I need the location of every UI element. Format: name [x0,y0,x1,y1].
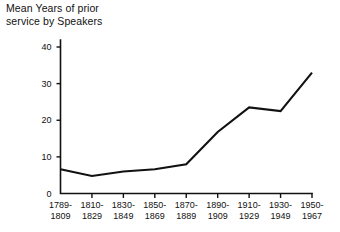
x-tick-label: 1810-1829 [80,200,103,221]
chart-figure: Mean Years of prior service by Speakers … [0,0,340,232]
y-tick-label: 20 [41,115,51,125]
y-tick-label: 40 [41,42,51,52]
line-chart-plot: 010203040 1789-18091810-18291830-1849185… [0,0,340,232]
y-tick-label: 10 [41,152,51,162]
x-tick-label: 1890-1909 [206,200,229,221]
axis-lines [61,40,313,194]
y-tick-label: 30 [41,79,51,89]
y-tick-label: 0 [46,189,51,199]
axes [61,40,313,194]
x-tick-label: 1950-1967 [300,200,323,221]
y-axis-tick-labels: 010203040 [41,42,51,199]
data-series-line [61,73,313,176]
x-tick-label: 1789-1809 [49,200,72,221]
x-axis-tick-labels: 1789-18091810-18291830-18491850-18691870… [49,200,324,221]
x-tick-label: 1930-1949 [269,200,292,221]
x-tick-label: 1830-1849 [112,200,135,221]
x-tick-label: 1870-1889 [175,200,198,221]
x-tick-label: 1910-1929 [238,200,261,221]
x-tick-label: 1850-1869 [143,200,166,221]
